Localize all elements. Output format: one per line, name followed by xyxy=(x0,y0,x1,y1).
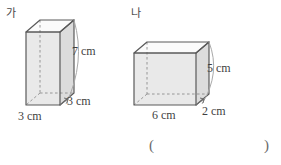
prism-na-width-label: 6 cm xyxy=(152,109,176,121)
prism-ga-depth-label: 3 cm xyxy=(67,95,91,107)
prism-na-front-face xyxy=(134,53,196,105)
answer-open-paren: ( xyxy=(149,138,154,153)
prism-na-height-label: 5 cm xyxy=(207,62,231,74)
prism-na-name-label: 나 xyxy=(131,8,141,19)
prism-ga-front-face xyxy=(26,32,60,105)
prism-ga-height-label: 7 cm xyxy=(72,45,96,57)
prism-ga-width-label: 3 cm xyxy=(18,110,42,122)
prism-ga-right-face xyxy=(60,20,74,105)
answer-close-paren: ) xyxy=(264,138,269,153)
geometry-figure-page: 가 나 7 cm 3 cm 3 cm 5 cm 2 cm 6 cm ( ) xyxy=(0,0,281,165)
prism-na-depth-label: 2 cm xyxy=(202,105,226,117)
prism-ga-name-label: 가 xyxy=(6,8,16,19)
prisms-drawing xyxy=(0,0,281,165)
